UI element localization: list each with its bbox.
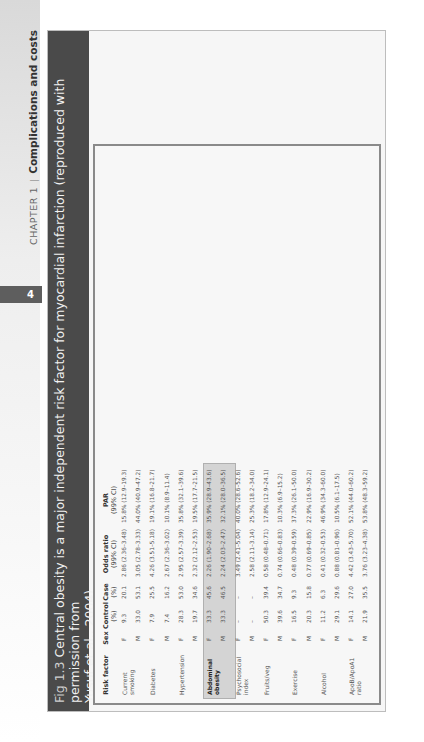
header-par-label: PAR <box>102 493 110 507</box>
case-cell: 35.5 <box>362 586 369 599</box>
par-cell: 19.5% (17.7–21.5) <box>192 470 199 524</box>
control-cell: 33.3 <box>220 610 227 623</box>
case-cell: 6.3 <box>320 590 327 599</box>
control-cell: 39.6 <box>277 610 284 623</box>
figure-frame: Fig 1.3Central obesity is a major indepe… <box>47 30 386 712</box>
par-cell: 17.8% (12.9–24.1) <box>263 470 270 524</box>
sex-cell: F <box>235 638 242 641</box>
odds-ratio-cell: 2.58 (2.11–3.14) <box>249 529 256 577</box>
sex-cell: F <box>320 638 327 641</box>
odds-ratio-cell: 2.24 (2.03–2.47) <box>220 529 227 577</box>
sex-cell: M <box>306 636 313 641</box>
control-cell: – <box>249 620 256 623</box>
sex-cell: F <box>291 638 298 641</box>
odds-ratio-cell: 0.58 (0.48–0.71) <box>263 529 270 577</box>
case-cell: 25.5 <box>149 586 156 599</box>
header-or-unit: (99% CI) <box>110 529 118 579</box>
sex-cell: M <box>220 636 227 641</box>
risk-factor-label: ApoB/ApoA1 ratio <box>348 647 362 695</box>
control-cell: 50.3 <box>263 610 270 623</box>
control-cell: 14.1 <box>348 610 355 623</box>
par-cell: 40.0% (28.6–52.6) <box>235 470 242 524</box>
control-cell: 7.4 <box>164 614 171 623</box>
page-number-tab: 4 <box>0 286 42 303</box>
odds-ratio-cell: 2.32 (2.12–2.53) <box>192 529 199 577</box>
header-case: Case(%) <box>102 581 118 603</box>
risk-factor-label: Diabetes <box>149 647 156 695</box>
case-cell: 16.2 <box>164 586 171 599</box>
odds-ratio-cell: 0.41 (0.32–0.53) <box>320 529 327 577</box>
sex-cell: F <box>178 638 185 641</box>
book-page: 4 CHAPTER 1|Complications and costs Fig … <box>0 0 424 742</box>
control-cell: 16.5 <box>291 610 298 623</box>
chapter-title: Complications and costs <box>27 30 39 174</box>
sex-cell: F <box>206 638 213 641</box>
par-cell: 22.9% (16.9–30.2) <box>306 470 313 524</box>
page-number: 4 <box>27 289 34 300</box>
sex-cell: F <box>149 638 156 641</box>
par-cell: 53.8% (48.3–59.2) <box>362 470 369 524</box>
risk-factor-label: Fruits/veg <box>263 647 270 695</box>
odds-ratio-cell: 2.67 (2.36–3.02) <box>164 529 171 577</box>
figure-caption: Fig 1.3Central obesity is a major indepe… <box>48 31 89 711</box>
par-cell: 10.5% (6.1–17.5) <box>334 473 341 523</box>
case-cell: 46.5 <box>220 586 227 599</box>
par-cell: 35.8% (32.1–39.6) <box>178 470 185 524</box>
par-cell: 19.1% (16.8–21.7) <box>149 470 156 524</box>
odds-ratio-cell: 2.26 (1.90–2.68) <box>206 529 213 577</box>
sex-cell: F <box>121 638 128 641</box>
par-cell: 44.0% (40.9–47.2) <box>135 470 142 524</box>
case-cell: 45.6 <box>206 586 213 599</box>
risk-factor-label: Hypertension <box>178 647 185 695</box>
case-cell: 53.0 <box>178 586 185 599</box>
figure-number: Fig 1.3 <box>52 661 67 703</box>
case-cell: 20.1 <box>121 586 128 599</box>
risk-factor-label: Psychosocial index <box>235 647 249 695</box>
case-cell: 53.1 <box>135 586 142 599</box>
sex-cell: M <box>164 636 171 641</box>
sex-cell: M <box>334 636 341 641</box>
control-cell: 19.7 <box>192 610 199 623</box>
case-cell: – <box>235 596 242 599</box>
control-cell: 9.3 <box>121 614 128 623</box>
running-head: CHAPTER 1|Complications and costs <box>27 30 39 245</box>
par-cell: 10.3% (6.9–15.2) <box>277 473 284 523</box>
sex-cell: M <box>192 636 199 641</box>
risk-factor-label: Exercise <box>291 647 298 695</box>
caption-line-1: Central obesity is a major independent r… <box>52 79 82 703</box>
case-cell: 9.3 <box>291 590 298 599</box>
header-risk-factor: Risk factor <box>102 655 110 695</box>
odds-ratio-cell: 4.26 (3.51–5.18) <box>149 529 156 577</box>
odds-ratio-cell: 3.76 (3.23–4.38) <box>362 529 369 577</box>
case-cell: 27.0 <box>348 586 355 599</box>
separator: | <box>28 179 39 182</box>
case-cell: 29.6 <box>334 586 341 599</box>
case-cell: 39.4 <box>263 586 270 599</box>
control-cell: 28.3 <box>178 610 185 623</box>
control-cell: 33.0 <box>135 610 142 623</box>
odds-ratio-cell: 0.88 (0.81–0.96) <box>334 529 341 577</box>
odds-ratio-cell: 0.77 (0.69–0.85) <box>306 529 313 577</box>
case-cell: 34.6 <box>192 586 199 599</box>
sex-cell: M <box>135 636 142 641</box>
control-cell: – <box>235 620 242 623</box>
header-case-label: Case <box>102 583 110 600</box>
sex-cell: M <box>277 636 284 641</box>
sex-cell: F <box>348 638 355 641</box>
case-cell: – <box>249 596 256 599</box>
odds-ratio-cell: 3.49 (2.41–5.04) <box>235 529 242 577</box>
header-case-unit: (%) <box>110 581 118 603</box>
case-cell: 34.7 <box>277 586 284 599</box>
header-or-label: Odds ratio <box>102 535 110 573</box>
case-cell: 15.8 <box>306 586 313 599</box>
odds-ratio-cell: 2.86 (2.36–3.48) <box>121 529 128 577</box>
par-cell: 10.1% (8.9–11.4) <box>164 473 171 523</box>
header-odds-ratio: Odds ratio(99% CI) <box>102 529 118 579</box>
risk-factor-label: Current smoking <box>121 647 135 695</box>
risk-factor-label: Abdominal obesity <box>206 647 220 695</box>
sex-cell: M <box>249 636 256 641</box>
control-cell: 11.2 <box>320 610 327 623</box>
header-control-label: Control <box>102 602 110 629</box>
par-cell: 46.9% (34.3–60.0) <box>320 470 327 524</box>
par-cell: 35.9% (28.9–43.6) <box>206 470 213 524</box>
